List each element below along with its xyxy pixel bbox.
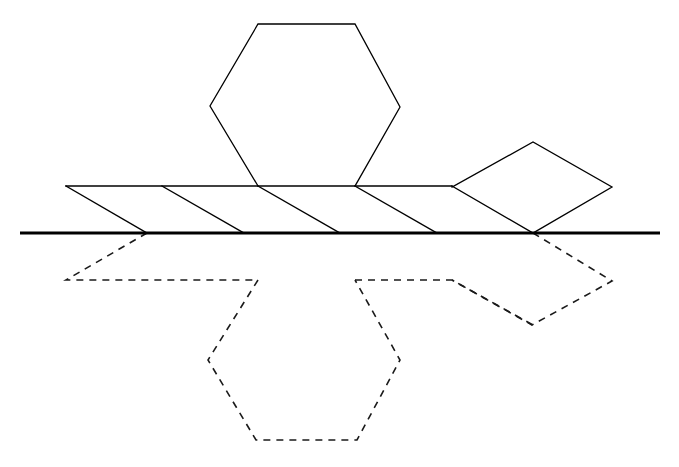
dashed-reflection-group [66,233,612,440]
reflected-right-band [355,280,533,325]
band-diagonal-1 [66,186,147,233]
geometry-figure [0,0,679,467]
solid-geometry-group [66,24,612,233]
right-rhombus [452,142,612,233]
band-diagonal-4 [355,186,437,233]
band-diagonal-2 [162,186,244,233]
diagram-canvas [0,0,679,467]
band-diagonal-3 [258,186,340,233]
band-diagonal-5 [452,186,533,233]
reflected-rhombus [452,233,612,325]
reflected-hexagon [208,280,400,440]
upper-hexagon [210,24,400,186]
reflected-left-tab [66,233,258,280]
